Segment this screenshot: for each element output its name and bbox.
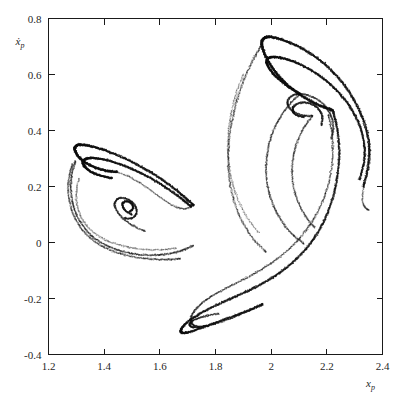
figure-container: 1.21.41.61.822.22.4-0.4-0.200.20.40.60.8… [0, 0, 400, 404]
x-tick-label: 1.2 [42, 360, 56, 372]
y-tick-label: 0.4 [28, 125, 42, 137]
x-tick-label: 1.8 [209, 360, 223, 372]
y-tick-label: 0 [36, 237, 42, 249]
y-tick-label: 0.8 [28, 13, 42, 25]
y-tick-label: 0.2 [28, 181, 42, 193]
x-tick-label: 2.2 [320, 360, 334, 372]
y-tick-label: -0.4 [24, 349, 42, 361]
x-tick-label: 2.4 [376, 360, 390, 372]
plot-background [0, 0, 400, 404]
x-tick-label: 1.4 [97, 360, 111, 372]
figure-caption [0, 392, 400, 404]
x-tick-label: 2 [268, 360, 274, 372]
x-tick-label: 1.6 [153, 360, 167, 372]
y-tick-label: -0.2 [24, 293, 41, 305]
y-tick-label: 0.6 [28, 69, 42, 81]
poincare-section-plot: 1.21.41.61.822.22.4-0.4-0.200.20.40.60.8… [0, 0, 400, 404]
